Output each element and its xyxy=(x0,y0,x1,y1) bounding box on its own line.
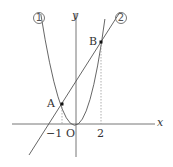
y-axis-label: y xyxy=(72,10,78,21)
curve-2-marker: 2 xyxy=(115,12,127,24)
point-a-label: A xyxy=(47,98,55,109)
point-b xyxy=(100,41,103,44)
point-b-label: B xyxy=(89,36,97,47)
tick-two: 2 xyxy=(97,128,104,139)
tick-neg-one: −1 xyxy=(46,128,62,139)
x-axis-label: x xyxy=(157,117,163,128)
graph-canvas xyxy=(0,0,173,167)
point-a xyxy=(61,103,64,106)
curve-1-marker: 1 xyxy=(33,12,45,24)
origin-label: O xyxy=(66,128,75,139)
